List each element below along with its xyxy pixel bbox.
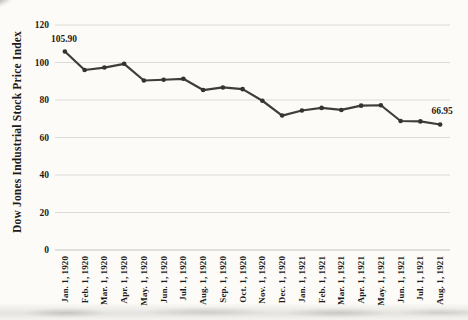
x-tick-label: Apr. 1, 1921 <box>356 256 366 304</box>
x-tick-label: Apr. 1, 1920 <box>119 256 129 304</box>
x-tick-label: Jan. 1, 1921 <box>297 256 307 303</box>
y-tick-label: 40 <box>40 170 50 180</box>
y-tick-label: 100 <box>35 58 50 68</box>
data-point-marker <box>102 65 107 70</box>
data-point-marker <box>240 87 245 92</box>
data-point-marker <box>63 49 68 54</box>
y-tick-label: 0 <box>44 245 49 255</box>
data-point-marker <box>260 98 265 103</box>
x-tick-label: Oct. 1, 1920 <box>238 256 248 303</box>
data-point-marker <box>379 103 384 108</box>
x-tick-label: Jun. 1, 1920 <box>159 256 169 304</box>
data-point-marker <box>300 108 305 113</box>
y-tick-label: 60 <box>40 133 50 143</box>
data-point-marker <box>142 78 147 83</box>
data-point-marker <box>339 108 344 113</box>
x-tick-label: Feb. 1, 1921 <box>317 256 327 304</box>
data-point-marker <box>359 103 364 108</box>
y-tick-label: 120 <box>35 20 50 30</box>
data-point-label: 105.90 <box>51 34 77 44</box>
x-tick-label: Aug. 1, 1920 <box>198 256 208 305</box>
data-point-marker <box>122 62 127 67</box>
data-point-label: 66.95 <box>431 106 453 116</box>
data-point-marker <box>438 122 443 127</box>
data-point-marker <box>201 88 206 93</box>
x-tick-label: Feb. 1, 1920 <box>80 256 90 304</box>
x-tick-label: Dec. 1, 1920 <box>277 256 287 304</box>
x-tick-label: May. 1, 1920 <box>139 256 149 306</box>
data-point-marker <box>221 85 226 90</box>
x-tick-label: Jun. 1, 1921 <box>396 256 406 304</box>
data-point-marker <box>82 68 87 73</box>
x-tick-label: Jul. 1, 1920 <box>178 256 188 301</box>
data-point-marker <box>319 106 324 111</box>
data-point-marker <box>181 77 186 82</box>
data-point-marker <box>398 119 403 124</box>
x-tick-label: Aug. 1, 1921 <box>435 256 445 305</box>
data-point-marker <box>418 119 423 124</box>
y-tick-label: 20 <box>40 208 50 218</box>
x-tick-label: Jul. 1, 1921 <box>415 256 425 301</box>
dow-jones-line-chart: Dow Jones Industrial Stock Price Index 0… <box>0 0 468 320</box>
y-axis-title: Dow Jones Industrial Stock Price Index <box>11 31 23 233</box>
data-point-marker <box>161 77 166 82</box>
x-tick-label: Nov. 1, 1920 <box>257 256 267 304</box>
data-point-marker <box>280 113 285 118</box>
x-tick-label: May. 1, 1921 <box>376 256 386 306</box>
y-tick-label: 80 <box>40 95 50 105</box>
x-tick-label: Jan. 1, 1920 <box>60 256 70 303</box>
chart-page: Dow Jones Industrial Stock Price Index 0… <box>0 0 468 320</box>
x-tick-label: Mar. 1, 1920 <box>99 256 109 305</box>
x-tick-label: Sep. 1, 1920 <box>218 256 228 303</box>
x-tick-label: Mar. 1, 1921 <box>336 256 346 305</box>
